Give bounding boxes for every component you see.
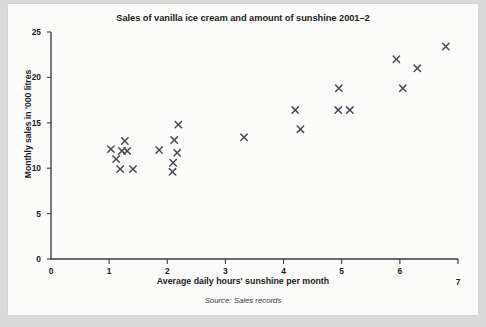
y-tick-label: 15 [19,118,41,128]
y-tick-label: 20 [19,72,41,82]
y-tick-label: 0 [19,254,41,264]
x-axis-label: Average daily hours' sunshine per month [0,276,486,286]
x-tick-label: 1 [99,266,119,276]
source-note: Source: Sales records [0,296,486,305]
x-tick-label: 4 [274,266,294,276]
y-tick-label: 25 [19,27,41,37]
page-title: Sales of vanilla ice cream and amount of… [8,13,478,23]
x-tick-label: 0 [41,266,61,276]
x-tick-label: 5 [332,266,352,276]
x-tick-label: 6 [390,266,410,276]
x-tick-label: 2 [157,266,177,276]
y-tick-label: 5 [19,209,41,219]
chart-page: Sales of vanilla ice cream and amount of… [0,0,486,327]
y-tick-label: 10 [19,163,41,173]
x-tick-label: 3 [215,266,235,276]
